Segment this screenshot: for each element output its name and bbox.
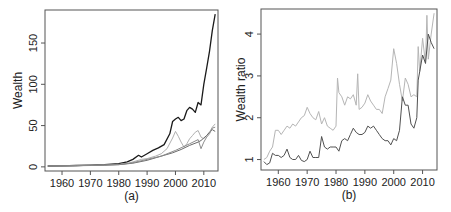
y-tick-label: 1 bbox=[243, 156, 255, 162]
y-tick-label: 50 bbox=[27, 119, 39, 131]
plot-frame bbox=[261, 9, 437, 170]
x-tick-label: 2010 bbox=[192, 177, 216, 189]
y-tick-label: 4 bbox=[243, 31, 255, 37]
x-tick-label: 1970 bbox=[78, 177, 102, 189]
x-tick-label: 1980 bbox=[324, 176, 348, 188]
series-line bbox=[264, 34, 434, 165]
y-axis-label: Wealth bbox=[11, 72, 25, 109]
x-tick-label: 1990 bbox=[135, 177, 159, 189]
plot-frame bbox=[45, 10, 218, 171]
x-tick-label: 1960 bbox=[50, 177, 74, 189]
y-axis-label: Wealth ratio bbox=[234, 57, 248, 121]
x-tick-label: 1960 bbox=[266, 176, 290, 188]
y-tick-label: 0 bbox=[27, 164, 39, 170]
chart-panel-a: 196019701980199020002010050100150Wealth(… bbox=[11, 10, 218, 203]
x-tick-label: 1970 bbox=[295, 176, 319, 188]
x-tick-label: 1990 bbox=[353, 176, 377, 188]
x-tick-label: 1980 bbox=[106, 177, 130, 189]
figure: 196019701980199020002010050100150Wealth(… bbox=[0, 0, 451, 212]
x-tick-label: 2000 bbox=[163, 177, 187, 189]
y-tick-label: 150 bbox=[27, 34, 39, 52]
chart-panel-b: 1960197019801990200020101234Wealth ratio… bbox=[234, 9, 437, 202]
panel-caption: (b) bbox=[342, 188, 357, 202]
y-tick-label: 100 bbox=[27, 75, 39, 93]
panel-caption: (a) bbox=[124, 189, 139, 203]
x-tick-label: 2000 bbox=[381, 176, 405, 188]
x-tick-label: 2010 bbox=[410, 176, 434, 188]
